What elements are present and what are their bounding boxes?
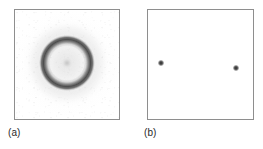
panel-b xyxy=(147,9,254,120)
figure-root: (a) (b) xyxy=(0,0,263,149)
panel-b-caption: (b) xyxy=(144,127,157,139)
panel-a-plate xyxy=(15,10,119,119)
ring-center-spot xyxy=(64,60,71,67)
diffraction-left-spot xyxy=(158,60,164,66)
diffraction-right-spot xyxy=(233,65,239,71)
panel-a-caption: (a) xyxy=(8,127,21,139)
panel-b-plate xyxy=(148,10,253,119)
panel-a xyxy=(14,9,120,120)
